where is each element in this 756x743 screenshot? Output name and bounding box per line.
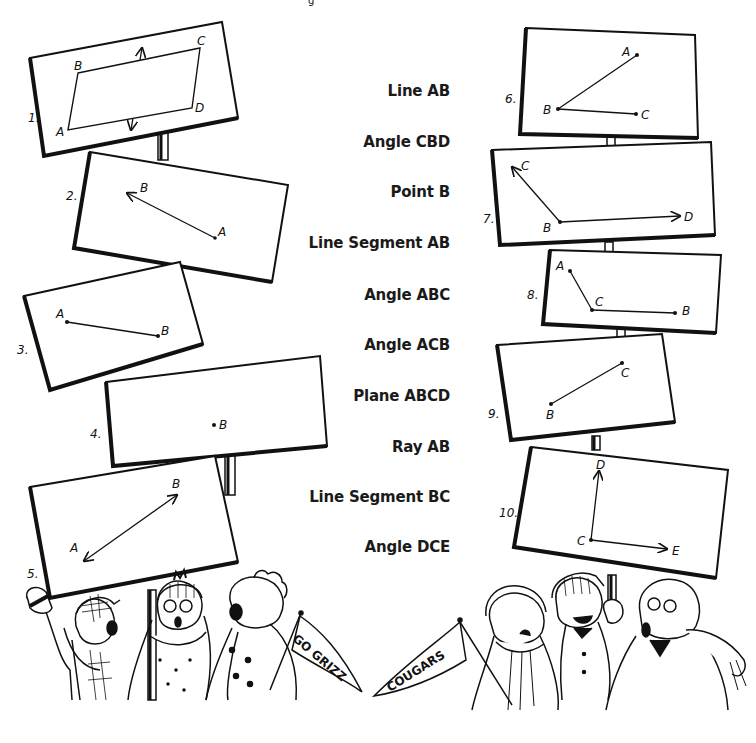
sign-7-label-c: C <box>521 159 530 173</box>
sign-7-angle-cbd: C B D 7. <box>483 142 715 245</box>
sign-10-label-e: E <box>672 544 680 558</box>
sign-8-label-a: A <box>555 259 564 273</box>
term-angle-dce: Angle DCE <box>365 538 450 556</box>
sign-1-number: 1. <box>28 111 39 125</box>
sign-10-label-c: C <box>577 534 586 548</box>
term-angle-acb: Angle ACB <box>364 336 450 354</box>
sign-5-line-ab: B A 5. <box>27 456 238 598</box>
right-fans-cartoon <box>374 573 746 710</box>
term-angle-abc: Angle ABC <box>364 286 450 304</box>
worksheet-drawing: g B C D A 1. B A <box>0 0 756 743</box>
sign-9-segment-bc: B C 9. <box>488 334 675 440</box>
sign-8-number: 8. <box>527 288 538 302</box>
sign-8-angle-acb: A C B 8. <box>527 250 721 333</box>
term-line-segment-ab: Line Segment AB <box>309 234 450 252</box>
sign-6-label-c: C <box>641 108 650 122</box>
sign-3-label-a: A <box>55 307 64 321</box>
sign-10-angle-dce: D C E 10. <box>499 447 728 578</box>
sign-6-label-b: B <box>543 103 551 117</box>
sign-4-number: 4. <box>90 427 101 441</box>
header-fragment: g <box>308 0 314 6</box>
term-line-segment-bc: Line Segment BC <box>309 488 450 506</box>
sign-6-label-a: A <box>621 45 630 59</box>
sign-7-label-b: B <box>543 221 551 235</box>
sign-9-label-c: C <box>621 366 630 380</box>
sign-6-number: 6. <box>505 92 516 106</box>
sign-7-label-d: D <box>684 210 693 224</box>
sign-8-label-c: C <box>595 295 604 309</box>
sign-5-label-a: A <box>69 541 78 555</box>
sign-1-plane-abcd: B C D A 1. <box>28 22 238 156</box>
sign-7-number: 7. <box>483 212 494 226</box>
sign-1-label-b: B <box>74 59 82 73</box>
sign-10-number: 10. <box>499 506 518 520</box>
sign-2-label-a: A <box>217 225 226 239</box>
sign-8-label-b: B <box>682 304 690 318</box>
term-line-ab: Line AB <box>388 82 450 100</box>
sign-5-number: 5. <box>27 567 38 581</box>
sign-1-label-c: C <box>197 34 206 48</box>
term-ray-ab: Ray AB <box>392 438 450 456</box>
sign-5-label-b: B <box>172 477 180 491</box>
sign-6-angle-abc: A B C 6. <box>505 28 698 138</box>
sign-2-number: 2. <box>66 189 77 203</box>
sign-10-label-d: D <box>596 458 605 472</box>
sign-4-point-b: B 4. <box>90 356 327 466</box>
sign-9-label-b: B <box>546 408 554 422</box>
sign-3-segment-ab: A B 3. <box>17 262 203 390</box>
term-plane-abcd: Plane ABCD <box>353 387 450 405</box>
sign-9-number: 9. <box>488 407 499 421</box>
term-point-b: Point B <box>390 183 450 201</box>
sign-3-number: 3. <box>17 343 28 357</box>
sign-4-label-b: B <box>219 418 227 432</box>
sign-1-label-a: A <box>55 125 64 139</box>
term-angle-cbd: Angle CBD <box>363 133 450 151</box>
worksheet-illustration: g B C D A 1. B A <box>0 0 756 743</box>
sign-1-label-d: D <box>195 101 204 115</box>
sign-2-label-b: B <box>140 181 148 195</box>
sign-3-label-b: B <box>161 324 169 338</box>
